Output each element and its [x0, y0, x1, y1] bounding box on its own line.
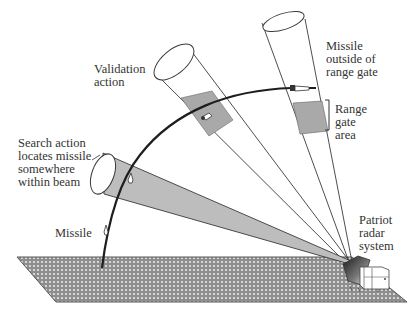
range-gate-area	[293, 101, 328, 134]
missile-icon-launch	[104, 225, 108, 235]
range-gate-area-label: Range gate area	[335, 103, 367, 142]
missile-icon-outside	[290, 85, 309, 91]
patriot-radar-icon	[343, 256, 389, 292]
missile-label: Missile	[55, 227, 92, 240]
validation-action-label: Validation action	[94, 63, 145, 89]
patriot-radar-label: Patriot radar system	[359, 214, 394, 253]
search-action-label: Search action locates missile somewhere …	[18, 137, 91, 189]
missile-outside-label: Missile outside of range gate	[326, 40, 378, 79]
search-beam	[85, 151, 351, 263]
